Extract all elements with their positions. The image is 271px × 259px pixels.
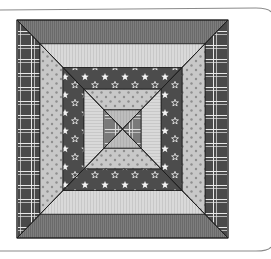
ring-outer-top-strip (17, 20, 228, 44)
ring-second-bottom-strip (40, 190, 205, 214)
quilt-illustration (0, 0, 271, 259)
log-cabin-quilt-block (17, 20, 228, 238)
ring-second-right-strip (182, 44, 205, 214)
ring-outer-right-strip (205, 20, 228, 238)
ring-outer-left-strip (17, 20, 40, 238)
quilt-canvas (0, 0, 271, 259)
ring-outer-bottom-strip (17, 214, 228, 238)
ring-second-top-strip (40, 44, 205, 68)
ring-second-left-strip (40, 44, 63, 214)
